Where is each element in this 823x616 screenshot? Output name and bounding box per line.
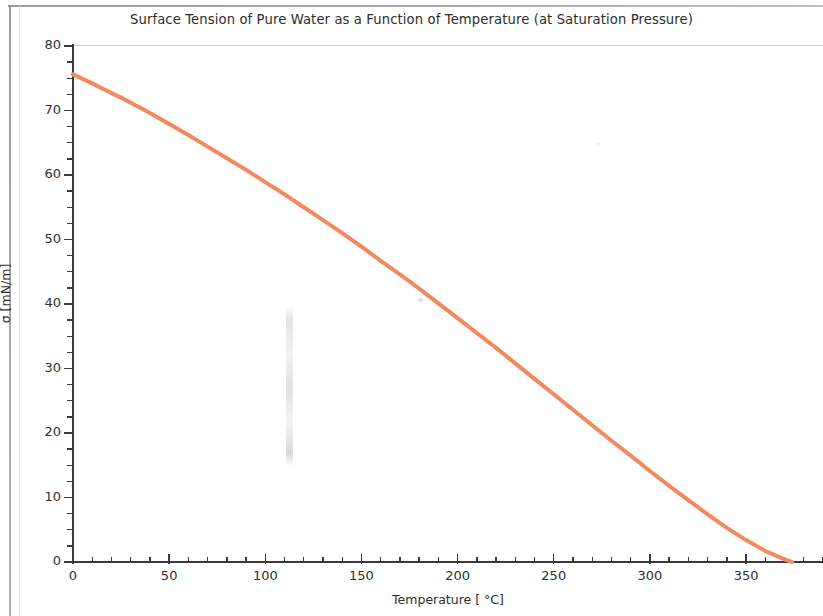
page-edge-left-inner xyxy=(19,5,20,616)
y-axis-tick xyxy=(67,481,74,482)
y-axis-tick xyxy=(67,61,74,62)
y-axis-tick xyxy=(67,126,74,127)
y-axis-tick xyxy=(67,529,74,530)
x-axis-tick xyxy=(803,557,804,563)
y-axis-tick xyxy=(64,368,74,369)
x-axis-tick xyxy=(457,554,458,564)
y-axis-tick xyxy=(67,78,74,79)
x-axis-tick xyxy=(72,554,73,564)
y-axis-tick xyxy=(67,255,74,256)
x-axis-tick xyxy=(245,557,246,563)
x-axis-line xyxy=(72,561,823,563)
x-axis-tick xyxy=(592,557,593,563)
x-tick-label: 50 xyxy=(139,568,199,583)
x-axis-tick xyxy=(130,557,131,563)
y-axis-tick xyxy=(67,94,74,95)
y-tick-label: 60 xyxy=(21,166,61,181)
x-axis-tick xyxy=(380,557,381,563)
y-tick-label: 80 xyxy=(21,37,61,52)
x-axis-title: Temperature [ °C] xyxy=(73,592,823,607)
page-edge-top xyxy=(8,5,823,7)
y-axis-tick xyxy=(67,416,74,417)
y-axis-tick xyxy=(67,448,74,449)
chart-title: Surface Tension of Pure Water as a Funct… xyxy=(0,12,823,27)
x-axis-tick xyxy=(515,557,516,563)
y-axis-tick xyxy=(67,207,74,208)
x-axis-tick xyxy=(226,557,227,563)
y-axis-tick xyxy=(64,110,74,111)
x-axis-tick xyxy=(476,557,477,563)
y-axis-tick xyxy=(67,190,74,191)
x-axis-tick xyxy=(342,557,343,563)
x-axis-tick xyxy=(630,557,631,563)
scan-artifact-speck xyxy=(566,405,572,409)
y-axis-tick xyxy=(67,384,74,385)
y-axis-tick xyxy=(67,319,74,320)
x-axis-tick xyxy=(534,557,535,563)
y-axis-tick xyxy=(67,142,74,143)
y-tick-label: 20 xyxy=(21,424,61,439)
y-axis-title: σ [mN/m] xyxy=(0,264,13,324)
x-tick-label: 250 xyxy=(524,568,584,583)
x-axis-tick xyxy=(111,557,112,563)
y-axis-tick xyxy=(67,352,74,353)
x-axis-tick xyxy=(784,557,785,563)
x-tick-label: 350 xyxy=(716,568,776,583)
x-axis-tick xyxy=(649,554,650,564)
y-axis-tick xyxy=(67,513,74,514)
y-axis-tick xyxy=(67,158,74,159)
x-axis-tick xyxy=(611,557,612,563)
x-axis-tick xyxy=(284,557,285,563)
y-axis-tick xyxy=(64,432,74,433)
data-curve-layer xyxy=(0,0,823,616)
y-axis-tick xyxy=(64,497,74,498)
scan-artifact-speck xyxy=(418,298,423,302)
y-axis-tick xyxy=(67,336,74,337)
x-axis-tick xyxy=(553,554,554,564)
x-tick-label: 300 xyxy=(620,568,680,583)
y-axis-tick xyxy=(67,400,74,401)
x-axis-tick xyxy=(303,557,304,563)
x-axis-tick xyxy=(726,557,727,563)
y-axis-tick xyxy=(64,239,74,240)
scan-artifact-smudge xyxy=(286,306,293,466)
y-tick-label: 10 xyxy=(21,489,61,504)
x-axis-tick xyxy=(765,557,766,563)
x-axis-tick xyxy=(572,557,573,563)
y-axis-tick xyxy=(67,223,74,224)
y-axis-tick xyxy=(64,174,74,175)
x-tick-label: 100 xyxy=(235,568,295,583)
x-axis-tick xyxy=(188,557,189,563)
plot-top-rule xyxy=(73,45,823,46)
x-axis-tick xyxy=(707,557,708,563)
x-axis-tick xyxy=(399,557,400,563)
series-line-surface-tension xyxy=(73,74,792,562)
scan-artifact-speck xyxy=(596,142,600,145)
x-tick-label: 200 xyxy=(428,568,488,583)
y-axis-tick xyxy=(67,465,74,466)
y-tick-label: 0 xyxy=(21,553,61,568)
y-axis-tick xyxy=(67,271,74,272)
x-axis-tick xyxy=(322,557,323,563)
x-axis-tick xyxy=(688,557,689,563)
y-axis-tick xyxy=(67,545,74,546)
y-axis-tick xyxy=(64,45,74,46)
x-axis-tick xyxy=(438,557,439,563)
y-axis-tick xyxy=(67,287,74,288)
y-axis-tick xyxy=(64,303,74,304)
x-axis-tick xyxy=(207,557,208,563)
x-axis-tick xyxy=(92,557,93,563)
scanned-chart-page: Surface Tension of Pure Water as a Funct… xyxy=(0,0,823,616)
x-axis-tick xyxy=(361,554,362,564)
x-axis-tick xyxy=(265,554,266,564)
y-tick-label: 50 xyxy=(21,231,61,246)
x-tick-label: 150 xyxy=(331,568,391,583)
y-tick-label: 40 xyxy=(21,295,61,310)
x-tick-label: 0 xyxy=(43,568,103,583)
y-tick-label: 30 xyxy=(21,360,61,375)
x-axis-tick xyxy=(149,557,150,563)
x-axis-tick xyxy=(418,557,419,563)
x-axis-tick xyxy=(168,554,169,564)
x-axis-tick xyxy=(745,554,746,564)
y-tick-label: 70 xyxy=(21,102,61,117)
